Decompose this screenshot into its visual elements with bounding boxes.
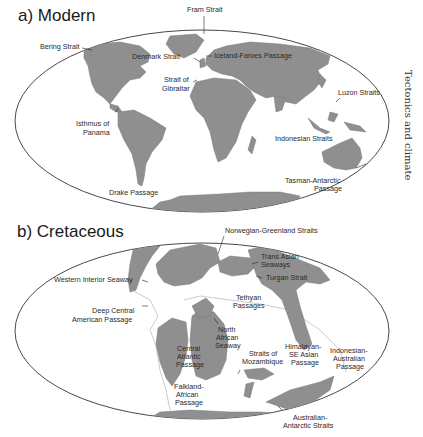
label-antarctic-straits: Antarctic Straits [283, 421, 334, 430]
label-seaway: Seaway [215, 341, 241, 350]
label-panama: Panama [83, 128, 110, 137]
cretaceous-antarctica [150, 410, 300, 424]
label-luzon-straits: Luzon Straits [338, 88, 380, 97]
label-indonesian-passage: Passage [336, 362, 364, 371]
label-mozambique: Mozambique [242, 357, 283, 366]
label-deep-central: Deep Central [92, 306, 135, 315]
label-central-atlantic-passage: Passage [176, 360, 204, 369]
label-norwegian-greenland-straits: Norwegian-Greenland Straits [225, 226, 318, 235]
label-bering-strait: Bering Strait [40, 42, 80, 51]
label-strait-of: Strait of [164, 75, 189, 84]
cretaceous-map: Norwegian-Greenland Straits Trans Asian … [15, 226, 389, 430]
label-isthmus-of: Isthmus of [76, 119, 109, 128]
label-fram-strait: Fram Strait [187, 5, 223, 14]
label-western-interior-seaway: Western Interior Seaway [54, 275, 133, 284]
label-tethyan-passages: Passages [233, 301, 265, 310]
label-himalayan-passage: Passage [291, 358, 319, 367]
label-iceland-faroes-passage: Iceland-Faroes Passage [214, 51, 292, 60]
label-drake-passage: Drake Passage [109, 188, 158, 197]
label-falkland-passage: Passage [175, 398, 203, 407]
label-american-passage: American Passage [72, 315, 132, 324]
label-indonesian-straits: Indonesian Straits [275, 134, 333, 143]
label-turgan-strait: Turgan Strait [266, 273, 307, 282]
label-tasman-passage: Passage [314, 184, 342, 193]
label-gibraltar: Gibraltar [162, 84, 190, 93]
map-figure: Fram Strait Bering Strait Denmark Strait… [0, 0, 423, 437]
label-denmark-strait: Denmark Strait [132, 52, 180, 61]
modern-map: Fram Strait Bering Strait Denmark Strait… [15, 5, 389, 214]
label-seaways: Seaways [261, 260, 291, 269]
